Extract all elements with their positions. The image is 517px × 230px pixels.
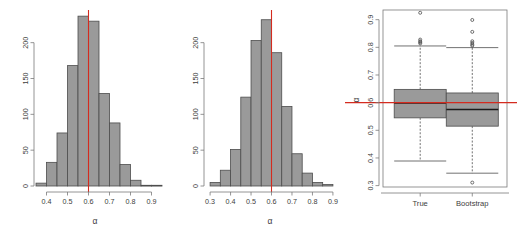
x-axis-title-true: α: [93, 216, 98, 226]
boxplot-outlier: [419, 11, 422, 14]
x-axis-tick-label: 0.5: [246, 197, 256, 206]
y-axis-tick-label: 0.5: [366, 125, 375, 135]
x-axis-tick-label: 0.5: [63, 197, 73, 206]
histogram-bar: [36, 183, 47, 186]
histogram-bar: [141, 185, 152, 186]
histogram-bar: [302, 173, 312, 186]
x-axis-category-label: True: [413, 199, 428, 208]
histogram-bar: [152, 185, 163, 186]
x-axis-tick-label: 0.8: [126, 197, 136, 206]
y-axis-tick-label: 0.7: [366, 70, 375, 80]
y-axis-tick-label: 100: [191, 108, 200, 120]
histogram-bar: [78, 16, 89, 186]
histogram-bar: [231, 149, 241, 186]
histogram-bar: [110, 123, 121, 186]
y-axis-tick-label: 0.4: [366, 153, 375, 163]
x-axis-tick-label: 0.4: [42, 197, 52, 206]
y-axis-tick-label: 0.6: [366, 98, 375, 108]
x-axis-category-label: Bootstrap: [456, 199, 489, 208]
histogram-bar: [261, 20, 271, 186]
y-axis-tick-label: 0.3: [366, 181, 375, 191]
histogram-bar: [251, 41, 261, 186]
histogram-bar: [312, 182, 322, 186]
histogram-bar: [272, 53, 282, 186]
histogram-bar: [282, 106, 292, 186]
x-axis-tick-label: 0.9: [328, 197, 338, 206]
y-axis-tick-label: 0.8: [366, 42, 375, 52]
x-axis-bootstrap: 0.30.40.50.60.70.80.9: [205, 192, 338, 206]
y-axis-tick-label: 200: [191, 37, 200, 49]
panel-boxplot: 0.30.40.50.60.70.80.9 TrueBootstrap α: [345, 0, 517, 230]
x-axis-title-bootstrap: α: [268, 216, 273, 226]
histogram-bar: [68, 66, 79, 186]
histogram-bootstrap-svg: 050100150200 0.30.40.50.60.70.80.9 α: [170, 0, 345, 230]
histogram-bar: [220, 170, 230, 186]
y-axis-tick-label: 0: [191, 184, 200, 188]
histogram-bar: [99, 94, 110, 186]
y-axis-bootstrap: 050100150200: [191, 37, 204, 188]
x-axis-boxplot: TrueBootstrap: [381, 193, 509, 208]
y-axis-tick-label: 150: [21, 73, 30, 85]
histogram-bar: [210, 182, 220, 186]
y-axis-tick-label: 200: [21, 37, 30, 49]
boxplot-outlier: [471, 181, 474, 184]
histogram-bar: [323, 185, 333, 186]
histogram-bar: [131, 180, 142, 186]
x-axis-tick-label: 0.6: [84, 197, 94, 206]
boxplot-outlier: [471, 18, 474, 21]
x-axis-tick-label: 0.9: [147, 197, 157, 206]
x-axis-tick-label: 0.4: [226, 197, 236, 206]
boxplot-boxes: [394, 11, 498, 184]
boxplot-svg: 0.30.40.50.60.70.80.9 TrueBootstrap α: [345, 0, 517, 230]
histogram-bar: [47, 162, 58, 186]
y-axis-tick-label: 150: [191, 73, 200, 85]
x-axis-true: 0.40.50.60.70.80.9: [42, 192, 157, 206]
y-axis-tick-label: 0.9: [366, 15, 375, 25]
x-axis-tick-label: 0.7: [287, 197, 297, 206]
y-axis-title-boxplot: α: [351, 97, 361, 102]
histogram-bar: [120, 165, 131, 187]
y-axis-tick-label: 0: [21, 184, 30, 188]
histogram-true-bars: [36, 16, 162, 186]
y-axis-tick-label: 50: [21, 146, 30, 154]
x-axis-tick-label: 0.3: [205, 197, 215, 206]
histogram-bar: [292, 154, 302, 186]
x-axis-tick-label: 0.7: [105, 197, 115, 206]
panel-histogram-bootstrap: 050100150200 0.30.40.50.60.70.80.9 α: [170, 0, 345, 230]
x-axis-tick-label: 0.6: [267, 197, 277, 206]
panel-histogram-true: 050100150200 0.40.50.60.70.80.9 α: [0, 0, 170, 230]
x-axis-tick-label: 0.8: [307, 197, 317, 206]
y-axis-tick-label: 100: [21, 108, 30, 120]
y-axis-tick-label: 50: [191, 146, 200, 154]
histogram-bar: [57, 133, 68, 186]
y-axis-true: 050100150200: [21, 37, 34, 188]
figure-bootstrap-alpha: 050100150200 0.40.50.60.70.80.9 α 050100…: [0, 0, 517, 230]
histogram-bar: [89, 21, 100, 186]
boxplot-outlier: [471, 30, 474, 33]
histogram-true-svg: 050100150200 0.40.50.60.70.80.9 α: [0, 0, 170, 230]
histogram-bar: [241, 97, 251, 186]
y-axis-boxplot: 0.30.40.50.60.70.80.9: [366, 15, 379, 191]
